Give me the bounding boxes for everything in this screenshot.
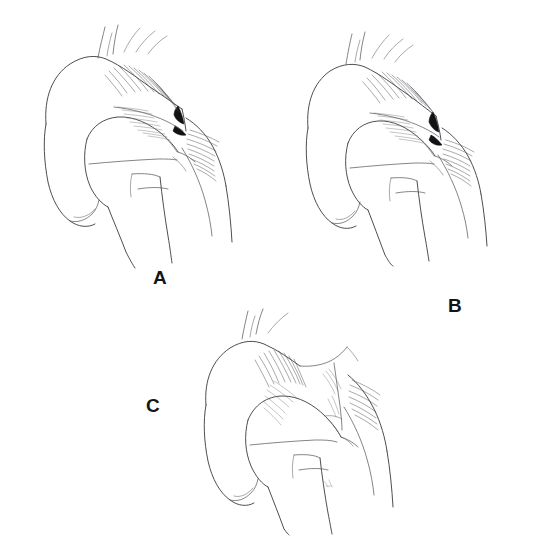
panel-c-illustration (198, 303, 428, 535)
trapezius-slips-c (242, 309, 288, 339)
surgical-neck-c (294, 455, 320, 458)
panel-label-c: C (146, 396, 160, 415)
coracoclavicular-interval-c (334, 363, 342, 430)
deltoid-contour-c (204, 405, 254, 505)
humeral-shaft-medial-a (160, 177, 172, 263)
surgical-neck-b (391, 178, 417, 181)
panel-c (198, 303, 428, 535)
artist-signature-mark-c (324, 480, 332, 487)
axillary-fold-c (230, 479, 258, 501)
trapezius-slips-a (98, 25, 167, 58)
acromioclavicular-joint-a (173, 106, 186, 135)
figure-canvas: A B C (0, 0, 533, 541)
clavicle-distal-end-c (300, 347, 347, 366)
acromioclavicular-joint-b (429, 112, 442, 145)
clavicle-inferior-border-a (114, 107, 183, 131)
clavicle-lateral-tip-c (347, 347, 358, 361)
glenoid-line-a (162, 134, 177, 152)
humeral-neck-c (246, 420, 268, 487)
clavicle-superior-border-b (308, 64, 436, 128)
panel-label-b: B (448, 296, 462, 315)
axillary-fold-a (70, 200, 99, 222)
panel-label-a: A (153, 268, 167, 287)
clavicle-undersurface-hatching-b (374, 113, 423, 143)
greater-tuberosity-a (89, 159, 177, 164)
humeral-neck-a (85, 139, 108, 207)
deltoid-contour-a (44, 124, 95, 226)
acromion-hatching-a (187, 130, 219, 181)
clavicle-inferior-border-b (370, 113, 439, 137)
clavicle-hatching-b (363, 72, 435, 115)
humeral-neck-b (346, 143, 368, 210)
clavicle-superior-border-c (206, 341, 300, 405)
coracoid-process-a (178, 152, 195, 162)
clavicle-undersurface-hatching-c (264, 381, 297, 425)
panel-a-illustration (10, 14, 280, 269)
panel-b-illustration (300, 22, 530, 267)
humeral-shaft-lateral-a (108, 207, 135, 268)
greater-tuberosity-c (250, 440, 337, 445)
panel-a (10, 14, 280, 269)
clavicle-hatching-a (105, 65, 178, 111)
humeral-head-b (348, 121, 435, 156)
acromion-lateral-edge-a (226, 186, 232, 242)
acromion-a (186, 118, 226, 186)
humeral-shaft-lateral-c (268, 487, 289, 535)
surgical-neck-a (132, 174, 160, 177)
clavicle-superior-border-a (46, 56, 182, 124)
trapezius-slips-b (346, 32, 413, 64)
panel-b (300, 22, 530, 267)
deltoid-contour-b (306, 128, 356, 228)
acromion-lateral-edge-c (387, 451, 393, 507)
axillary-fold-b (332, 202, 360, 224)
clavicle-hatching-c (255, 350, 306, 387)
scapular-spine-c (344, 407, 374, 495)
humeral-shaft-medial-b (417, 181, 429, 261)
acromion-lateral-edge-b (481, 194, 487, 246)
humeral-head-c (248, 396, 341, 437)
acromion-hatching-b (443, 140, 474, 186)
greater-tuberosity-b (350, 163, 434, 168)
humeral-shaft-lateral-b (368, 210, 393, 266)
acromion-hatching-c (349, 380, 380, 430)
clavicle-undersurface-hatching-a (118, 107, 170, 140)
